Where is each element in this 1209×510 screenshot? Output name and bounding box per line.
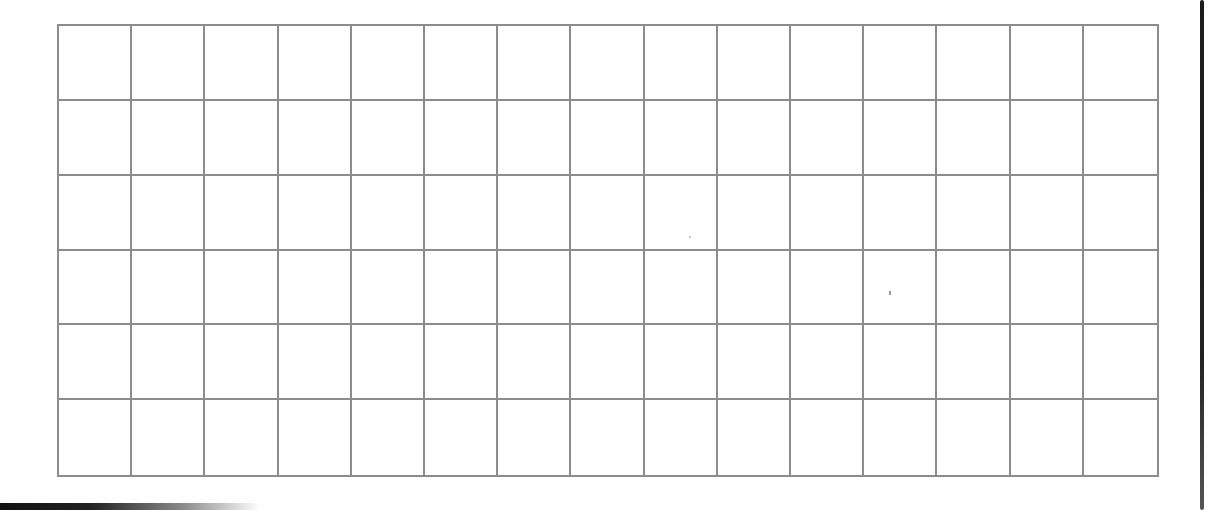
scan-speck: [689, 236, 691, 238]
grid-cell: [645, 325, 718, 400]
grid-cell: [352, 325, 425, 400]
grid-cell: [571, 325, 644, 400]
grid-cell: [205, 400, 278, 475]
grid-cell: [571, 251, 644, 326]
grid-cell: [864, 400, 937, 475]
grid-cell: [1084, 176, 1157, 251]
grid-cell: [59, 251, 132, 326]
grid-cell: [645, 101, 718, 176]
grid-cell: [571, 101, 644, 176]
grid-cell: [132, 251, 205, 326]
grid-cell: [425, 400, 498, 475]
grid-cell: [645, 400, 718, 475]
grid-cell: [352, 176, 425, 251]
grid-cell: [498, 251, 571, 326]
grid-cell: [59, 101, 132, 176]
grid-cell: [205, 176, 278, 251]
grid-cell: [352, 26, 425, 101]
grid-cell: [279, 400, 352, 475]
grid-cell: [937, 400, 1010, 475]
grid-cell: [425, 101, 498, 176]
page-edge-shadow-bottom: [0, 503, 260, 510]
grid-cell: [1011, 400, 1084, 475]
grid-cell: [425, 176, 498, 251]
grid-cell: [132, 400, 205, 475]
grid-cell: [59, 26, 132, 101]
grid-cell: [59, 325, 132, 400]
grid-cell: [498, 176, 571, 251]
grid-cell: [279, 325, 352, 400]
blank-grid-table: [57, 24, 1159, 477]
grid-cell: [425, 26, 498, 101]
grid-cell: [1011, 251, 1084, 326]
grid-cell: [498, 400, 571, 475]
grid-cell: [1011, 101, 1084, 176]
grid-cell: [645, 176, 718, 251]
grid-cell: [498, 26, 571, 101]
grid-cell: [352, 251, 425, 326]
grid-cell: [1084, 26, 1157, 101]
grid-cell: [718, 400, 791, 475]
grid-cell: [937, 101, 1010, 176]
grid-cell: [718, 251, 791, 326]
grid-cell: [864, 251, 937, 326]
grid-cell: [1084, 400, 1157, 475]
grid-cell: [498, 101, 571, 176]
scanned-page: [0, 0, 1209, 510]
grid-cell: [425, 325, 498, 400]
grid-cell: [718, 26, 791, 101]
grid-cell: [718, 101, 791, 176]
grid-cell: [864, 101, 937, 176]
grid-cell: [645, 251, 718, 326]
grid-cell: [132, 325, 205, 400]
grid-cell: [352, 101, 425, 176]
grid-cell: [1011, 325, 1084, 400]
grid-cell: [59, 176, 132, 251]
grid-cell: [937, 251, 1010, 326]
grid-cell: [1011, 26, 1084, 101]
grid-cell: [937, 325, 1010, 400]
grid-cell: [718, 325, 791, 400]
grid-cell: [571, 176, 644, 251]
grid-cell: [352, 400, 425, 475]
grid-cell: [425, 251, 498, 326]
grid-cell: [864, 325, 937, 400]
grid-cell: [279, 101, 352, 176]
grid-cell: [1011, 176, 1084, 251]
grid-cell: [864, 176, 937, 251]
grid-cell: [205, 101, 278, 176]
grid-cell: [205, 325, 278, 400]
grid-cell: [791, 176, 864, 251]
grid-cell: [1084, 251, 1157, 326]
grid-cell: [132, 101, 205, 176]
grid-cell: [791, 101, 864, 176]
scan-speck: [889, 291, 891, 295]
grid-cell: [791, 400, 864, 475]
grid-cell: [205, 251, 278, 326]
grid-cell: [279, 176, 352, 251]
grid-cell: [59, 400, 132, 475]
grid-cell: [791, 26, 864, 101]
grid-cell: [205, 26, 278, 101]
grid-cell: [279, 251, 352, 326]
grid-cell: [937, 176, 1010, 251]
grid-cell: [718, 176, 791, 251]
grid-cell: [1084, 101, 1157, 176]
grid-cell: [571, 26, 644, 101]
page-edge-shadow-right: [1200, 0, 1204, 510]
grid-cell: [645, 26, 718, 101]
grid-cell: [132, 26, 205, 101]
grid-cell: [791, 251, 864, 326]
grid-cell: [498, 325, 571, 400]
grid-cell: [1084, 325, 1157, 400]
grid-cell: [279, 26, 352, 101]
grid-cell: [937, 26, 1010, 101]
grid-cell: [864, 26, 937, 101]
grid-cell: [791, 325, 864, 400]
grid-cell: [571, 400, 644, 475]
grid-cell: [132, 176, 205, 251]
